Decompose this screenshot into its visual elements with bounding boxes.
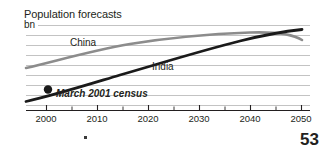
chart-canvas [0,0,327,152]
population-forecasts-figure: Population forecasts bn China India Marc… [0,0,327,152]
x-axis-minor-ticks [72,107,276,111]
stray-print-mark [84,136,87,139]
series-label-india: India [152,61,174,72]
x-tick-label-2000: 2000 [35,113,56,124]
x-tick-label-2050: 2050 [290,113,311,124]
x-tick-label-2020: 2020 [137,113,158,124]
y-axis-unit-label: bn [24,19,35,30]
page-title: Population forecasts [24,8,122,20]
annotation-label-census: March 2001 census [56,88,148,99]
x-tick-label-2030: 2030 [188,113,209,124]
page-number: 53 [300,130,319,150]
series-label-china: China [70,37,96,48]
x-tick-label-2040: 2040 [239,113,260,124]
x-tick-label-2010: 2010 [86,113,107,124]
census-marker-dot [44,85,52,93]
